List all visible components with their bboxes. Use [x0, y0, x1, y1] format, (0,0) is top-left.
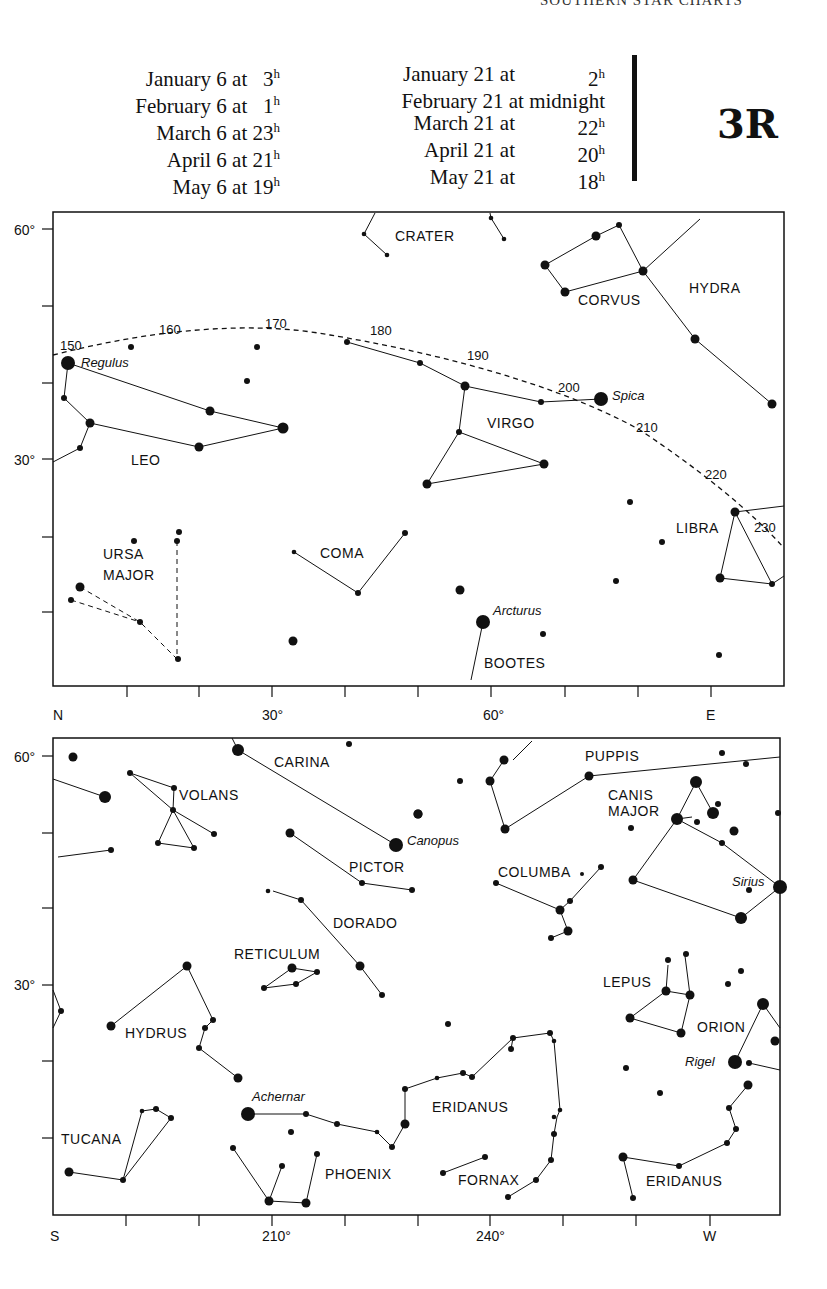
x-label: 30° [262, 707, 283, 723]
label-rigel: Rigel [685, 1054, 716, 1069]
chart-frame [53, 738, 780, 1215]
star-canopus [389, 838, 403, 852]
y-tick-label: 30° [14, 452, 35, 468]
south-labels: 60° 30° S 210° 240° W CARINA VOLANS PICT… [14, 748, 765, 1244]
constellation-lines [53, 213, 784, 680]
label-arcturus: Arcturus [492, 603, 542, 618]
constellation-lines [53, 738, 780, 1203]
north-stars [61, 216, 777, 662]
x-label-n: N [53, 707, 63, 723]
ecliptic-mark: 200 [558, 380, 580, 395]
chart-south [42, 738, 780, 1226]
y-ticks [42, 229, 53, 612]
label-corvus: CORVUS [578, 292, 641, 308]
label-crater: CRATER [395, 228, 455, 244]
label-achernar: Achernar [251, 1089, 305, 1104]
x-label: 240° [476, 1228, 505, 1244]
y-tick-label: 60° [14, 749, 35, 765]
ecliptic-mark: 160 [159, 322, 181, 337]
ecliptic-mark: 170 [265, 316, 287, 331]
ecliptic-mark: 210 [636, 420, 658, 435]
north-labels: 60° 30° N 30° 60° E CRATER CORVUS HYDRA … [14, 222, 776, 723]
x-label: 210° [262, 1228, 291, 1244]
x-label-w: W [703, 1228, 717, 1244]
label-eridanus-east: ERIDANUS [646, 1173, 722, 1189]
y-tick-label: 30° [14, 977, 35, 993]
star-charts: 60° 30° N 30° 60° E CRATER CORVUS HYDRA … [0, 0, 827, 1289]
y-ticks [42, 756, 53, 1138]
label-carina: CARINA [274, 754, 330, 770]
ecliptic-mark: 180 [370, 323, 392, 338]
x-ticks [127, 686, 711, 697]
label-major: MAJOR [103, 567, 155, 583]
star-rigel [728, 1055, 742, 1069]
label-virgo: VIRGO [487, 415, 535, 431]
label-libra: LIBRA [676, 520, 719, 536]
label-pictor: PICTOR [349, 859, 405, 875]
ecliptic-mark: 230 [754, 520, 776, 535]
label-canopus: Canopus [407, 833, 460, 848]
label-columba: COLUMBA [498, 864, 571, 880]
y-tick-label: 60° [14, 222, 35, 238]
label-canis: CANIS [608, 787, 653, 803]
label-leo: LEO [131, 452, 161, 468]
chart-frame [53, 212, 784, 686]
label-eridanus: ERIDANUS [432, 1099, 508, 1115]
x-label-s: S [50, 1228, 59, 1244]
ecliptic-mark: 190 [467, 348, 489, 363]
label-regulus: Regulus [81, 355, 129, 370]
label-phoenix: PHOENIX [325, 1166, 392, 1182]
south-stars [58, 741, 787, 1208]
star-achernar [241, 1107, 255, 1121]
x-label-e: E [706, 707, 715, 723]
label-coma: COMA [320, 545, 364, 561]
label-fornax: FORNAX [458, 1172, 520, 1188]
star-arcturus [476, 615, 490, 629]
label-spica: Spica [612, 388, 645, 403]
label-lepus: LEPUS [603, 974, 651, 990]
ecliptic-mark: 220 [705, 467, 727, 482]
label-tucana: TUCANA [61, 1131, 122, 1147]
label-hydrus: HYDRUS [125, 1025, 187, 1041]
star-regulus [61, 356, 75, 370]
label-volans: VOLANS [179, 787, 239, 803]
x-label: 60° [483, 707, 504, 723]
label-sirius: Sirius [732, 874, 765, 889]
star-sirius [773, 880, 787, 894]
x-ticks [126, 1215, 710, 1226]
label-ursa: URSA [103, 546, 144, 562]
label-hydra: HYDRA [689, 280, 741, 296]
label-major: MAJOR [608, 803, 660, 819]
label-reticulum: RETICULUM [234, 946, 320, 962]
label-bootes: BOOTES [484, 655, 545, 671]
label-puppis: PUPPIS [585, 748, 639, 764]
ecliptic-mark: 150 [60, 338, 82, 353]
label-orion: ORION [697, 1019, 745, 1035]
label-dorado: DORADO [333, 915, 397, 931]
star-spica [594, 392, 608, 406]
